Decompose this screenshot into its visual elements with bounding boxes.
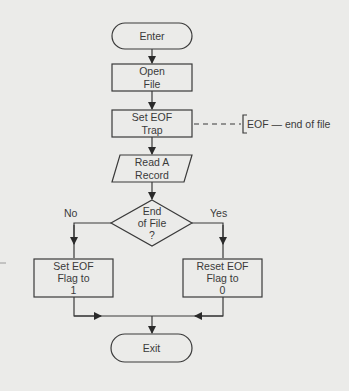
set-eof-trap-box: Set EOF Trap — [112, 110, 192, 137]
exit-terminal: Exit — [111, 334, 192, 362]
flowchart-canvas — [0, 0, 349, 391]
yes-branch-label: Yes — [210, 207, 227, 219]
edge-reset-flag-merge — [152, 297, 223, 316]
edge-set-flag-merge — [74, 297, 152, 316]
end-of-file-decision: End of File ? — [112, 203, 192, 243]
read-record-box: Read A Record — [112, 155, 192, 182]
annotation-text: EOF — end of file — [247, 118, 330, 130]
set-flag-box: Set EOF Flag to 1 — [34, 259, 113, 297]
no-branch-label: No — [64, 207, 77, 219]
edge-no-branch — [74, 223, 111, 258]
reset-flag-box: Reset EOF Flag to 0 — [183, 259, 262, 297]
edge-yes-branch — [192, 223, 223, 258]
open-file-box: Open File — [112, 64, 192, 91]
enter-terminal: Enter — [112, 23, 192, 49]
